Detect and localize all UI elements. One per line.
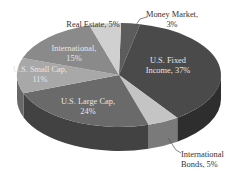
- slice-label: Real Estate, 5%: [66, 20, 119, 29]
- slice-label-line: Real Estate, 5%: [66, 20, 119, 29]
- slice-label-line: 3%: [166, 20, 177, 29]
- slice-label-line: 15%: [66, 54, 81, 63]
- slice-label-line: International,: [52, 44, 97, 53]
- slice-label-line: U.S. Large Cap,: [61, 97, 115, 106]
- pie-slices: [17, 23, 221, 127]
- slice-label-line: 11%: [32, 75, 47, 84]
- slice-label-line: Income, 37%: [146, 66, 191, 75]
- slice-label: U.S. FixedIncome, 37%: [146, 56, 191, 75]
- slice-label-line: 24%: [80, 107, 95, 116]
- slice-label-line: U.S. Small Cap,: [13, 65, 67, 74]
- slice-label-line: Bonds, 5%: [181, 160, 218, 169]
- slice-label-line: U.S. Fixed: [150, 56, 187, 65]
- slice-label-line: Money Market,: [146, 10, 198, 19]
- slice-label: InternationalBonds, 5%: [181, 150, 224, 169]
- pie-chart: Money Market,3%U.S. FixedIncome, 37%Inte…: [0, 0, 243, 184]
- slice-label-line: International: [181, 150, 224, 159]
